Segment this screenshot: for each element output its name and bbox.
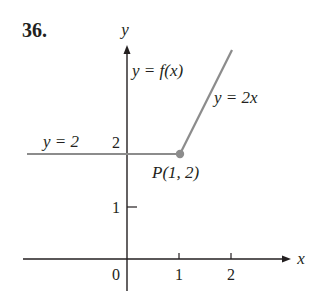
y-axis-arrow-icon xyxy=(124,45,131,54)
problem-number: 36. xyxy=(22,19,47,41)
y-axis-label: y xyxy=(119,20,129,39)
x-axis-label: x xyxy=(296,249,305,268)
point-label: P(1, 2) xyxy=(151,163,200,182)
x-tick-label-1: 1 xyxy=(175,266,183,283)
function-label: y = f(x) xyxy=(130,61,183,80)
x-tick-label-2: 2 xyxy=(227,266,235,283)
graph-figure: 36. y x 0 1 2 1 2 y = f(x) y = 2x y = 2 … xyxy=(0,0,315,307)
line-right-label: y = 2x xyxy=(212,88,258,107)
point-p xyxy=(176,150,184,158)
y-tick-label-2: 2 xyxy=(112,134,120,151)
y-tick-label-1: 1 xyxy=(112,199,120,216)
origin-label: 0 xyxy=(112,266,120,283)
x-axis-arrow-icon xyxy=(282,256,291,263)
line-left-label: y = 2 xyxy=(41,132,80,151)
